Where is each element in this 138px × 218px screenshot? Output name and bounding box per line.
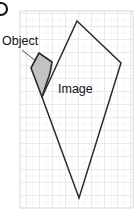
- image-label: Image: [58, 83, 93, 96]
- object-label: Object: [2, 35, 38, 48]
- geometry-figure: Object Image: [0, 0, 138, 218]
- figure-canvas: [0, 0, 138, 218]
- figure-part-label-icon: [0, 3, 7, 15]
